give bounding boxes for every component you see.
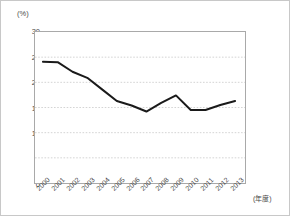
chart-plot-svg: [35, 32, 245, 183]
x-axis-unit-label: (年度): [253, 193, 272, 203]
plot-area: [34, 31, 246, 184]
data-series-line: [43, 62, 235, 112]
chart-figure: (%) 051015202530 20002001200220032004200…: [0, 0, 290, 216]
y-axis-unit-label: (%): [17, 9, 29, 18]
